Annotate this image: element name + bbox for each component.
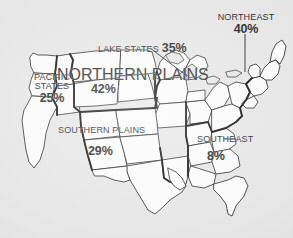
label-lake-states: LAKE STATES35%	[98, 39, 187, 55]
state-midwest-a	[155, 102, 190, 128]
region-northeast	[242, 40, 286, 108]
state-indiana-n	[186, 90, 205, 102]
region-southern-plains	[80, 108, 162, 170]
label-southern-plains-value: 29%	[88, 145, 113, 158]
label-pacific-states-name-2: STATES	[24, 82, 80, 91]
label-northeast: NORTHEAST 40%	[215, 13, 277, 36]
label-southeast-name: SOUTHEAST	[197, 135, 253, 144]
map-figure: PACIFIC STATES 25% NORTHERN PLAINS 42% S…	[0, 0, 293, 238]
label-northeast-value: 40%	[215, 23, 277, 36]
label-lake-states-name: LAKE STATES	[98, 44, 159, 54]
state-florida	[214, 176, 248, 216]
label-pacific-states-value: 25%	[24, 92, 80, 105]
label-lake-states-value: 35%	[162, 41, 187, 55]
label-southern-plains-name: SOUTHERN PLAINS	[58, 126, 145, 135]
lake-ontario	[226, 70, 242, 77]
region-pacific-states	[22, 53, 57, 168]
label-northeast-name: NORTHEAST	[215, 13, 277, 22]
label-southeast-value: 8%	[207, 150, 225, 163]
label-northern-plains-name: NORTHERN PLAINS	[57, 67, 209, 83]
label-northern-plains-value: 42%	[91, 83, 116, 96]
